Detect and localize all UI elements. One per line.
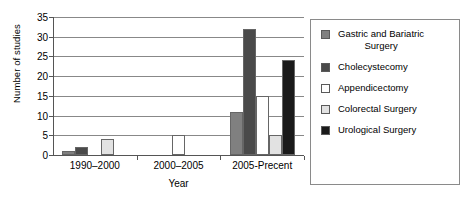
- x-tick-label: 2000–2005: [153, 160, 203, 171]
- x-tick-mark: [304, 156, 305, 160]
- y-tick-label: 30: [37, 31, 48, 42]
- y-axis-title: Number of studies: [11, 4, 22, 124]
- legend-swatch-icon: [321, 30, 330, 39]
- bar: [172, 135, 185, 155]
- legend-item[interactable]: Urological Surgery: [321, 124, 453, 136]
- x-axis-line: [53, 155, 304, 156]
- bar: [243, 29, 256, 155]
- bar: [256, 96, 269, 155]
- y-tick-mark: [49, 56, 53, 57]
- legend-label: Gastric and BariatricSurgery: [338, 28, 424, 52]
- y-tick-mark: [49, 96, 53, 97]
- legend-swatch-icon: [321, 126, 330, 135]
- plot-area: 05101520253035 1990–20002000–20052005-Pr…: [53, 17, 304, 156]
- y-tick-mark: [49, 155, 53, 156]
- legend-item[interactable]: Appendicectomy: [321, 82, 453, 94]
- legend-label: Colorectal Surgery: [338, 103, 417, 115]
- legend-swatch-icon: [321, 63, 330, 72]
- y-tick-mark: [49, 135, 53, 136]
- bar: [282, 60, 295, 155]
- x-tick-label: 2005-Precent: [232, 160, 292, 171]
- legend-label: Cholecystecomy: [338, 61, 408, 73]
- legend-swatch-icon: [321, 84, 330, 93]
- y-tick-label: 35: [37, 12, 48, 23]
- bar: [62, 151, 75, 155]
- bar-group: [146, 17, 211, 155]
- y-tick-label: 5: [42, 130, 48, 141]
- legend-label: Urological Surgery: [338, 124, 416, 136]
- legend-swatch-icon: [321, 105, 330, 114]
- bar-chart-figure: Number of studies 05101520253035 1990–20…: [0, 0, 466, 200]
- y-tick-label: 10: [37, 110, 48, 121]
- legend-item[interactable]: Gastric and BariatricSurgery: [321, 28, 453, 52]
- legend-label: Appendicectomy: [338, 82, 408, 94]
- y-tick-mark: [49, 116, 53, 117]
- y-tick-label: 20: [37, 71, 48, 82]
- y-tick-mark: [49, 17, 53, 18]
- x-tick-label: 1990–2000: [70, 160, 120, 171]
- x-tick-mark: [137, 156, 138, 160]
- bar-group: [62, 17, 127, 155]
- legend-item[interactable]: Cholecystecomy: [321, 61, 453, 73]
- legend-item[interactable]: Colorectal Surgery: [321, 103, 453, 115]
- y-tick-label: 0: [42, 150, 48, 161]
- x-axis-title: Year: [53, 178, 304, 189]
- chart-legend: Gastric and BariatricSurgeryCholecysteco…: [310, 19, 460, 185]
- y-tick-mark: [49, 37, 53, 38]
- bar: [230, 112, 243, 155]
- y-tick-mark: [49, 76, 53, 77]
- bar-group: [230, 17, 295, 155]
- bar: [101, 139, 114, 155]
- y-tick-label: 15: [37, 90, 48, 101]
- bar: [75, 147, 88, 155]
- y-tick-label: 25: [37, 51, 48, 62]
- x-tick-mark: [220, 156, 221, 160]
- bar: [269, 135, 282, 155]
